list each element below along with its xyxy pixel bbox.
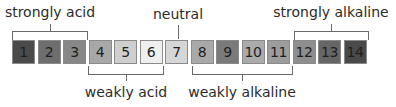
neutral-tick (178, 25, 179, 39)
strongly-alkaline-bracket (294, 31, 369, 40)
ph-box-10: 10 (242, 40, 265, 64)
weakly-alkaline-tick (242, 75, 243, 81)
ph-box-7: 7 (165, 40, 188, 64)
weakly-alkaline-bracket (192, 66, 293, 75)
ph-box-1: 1 (12, 40, 35, 64)
weakly-acid-tick (126, 75, 127, 81)
ph-box-9: 9 (216, 40, 239, 64)
ph-box-14: 14 (344, 40, 367, 64)
weakly-acid-label: weakly acid (85, 84, 167, 100)
neutral-label: neutral (153, 6, 203, 22)
strongly-acid-bracket (12, 31, 88, 40)
ph-box-3: 3 (63, 40, 86, 64)
ph-box-11: 11 (267, 40, 290, 64)
ph-box-12: 12 (293, 40, 316, 64)
ph-box-8: 8 (191, 40, 214, 64)
strongly-alkaline-tick (331, 24, 332, 31)
ph-box-5: 5 (114, 40, 137, 64)
ph-box-4: 4 (89, 40, 112, 64)
weakly-acid-bracket (88, 66, 164, 75)
strongly-acid-tick (50, 24, 51, 31)
ph-box-13: 13 (318, 40, 341, 64)
ph-box-6: 6 (140, 40, 163, 64)
strongly-alkaline-label: strongly alkaline (273, 4, 388, 20)
strongly-acid-label: strongly acid (5, 4, 95, 20)
ph-box-2: 2 (38, 40, 61, 64)
ph-scale-diagram: strongly acid neutral strongly alkaline … (0, 0, 396, 107)
weakly-alkaline-label: weakly alkaline (188, 84, 296, 100)
